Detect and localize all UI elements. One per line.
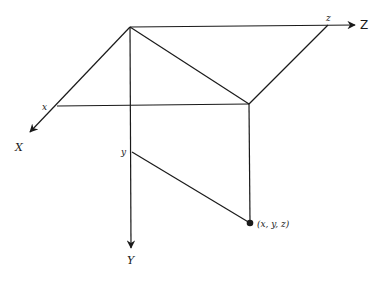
x-to-xz-line (57, 104, 249, 106)
y-axis-label: Y (127, 254, 136, 267)
x-axis (30, 27, 130, 132)
coordinate-diagram: (x, y, z) z Z x X y Y (0, 0, 376, 281)
origin-to-xz-line (130, 27, 249, 104)
y-to-point-line (132, 152, 250, 223)
point-label: (x, y, z) (257, 219, 290, 229)
z-axis-label: Z (360, 18, 368, 32)
z-to-xz-line (249, 25, 328, 104)
point-marker (247, 220, 254, 227)
y-axis (130, 27, 131, 248)
xz-to-point-line (249, 104, 250, 223)
y-tick-label: y (120, 147, 127, 157)
x-axis-label: X (14, 141, 24, 154)
x-tick-label: x (42, 102, 47, 112)
z-axis (130, 25, 355, 27)
z-tick-label: z (325, 13, 331, 23)
